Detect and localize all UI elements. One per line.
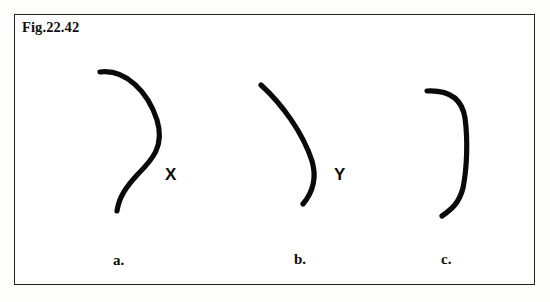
figure-frame bbox=[14, 14, 535, 285]
figure-root: Fig.22.42 X Y a. b. c. bbox=[0, 0, 550, 302]
marker-y-label: Y bbox=[334, 166, 345, 183]
figure-caption-label: Fig.22.42 bbox=[22, 20, 79, 35]
panel-label-c: c. bbox=[441, 252, 451, 267]
marker-x-label: X bbox=[165, 166, 176, 183]
panel-label-a: a. bbox=[113, 253, 124, 268]
panel-label-b: b. bbox=[294, 252, 306, 267]
